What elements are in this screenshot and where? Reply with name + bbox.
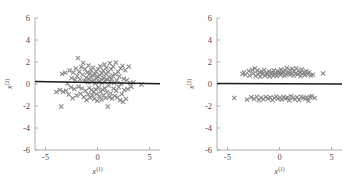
y-tick-label: -4 <box>23 123 31 133</box>
scatter-marker <box>129 85 133 89</box>
scatter-marker <box>114 89 118 93</box>
scatter-marker <box>81 61 85 65</box>
scatter-marker <box>321 71 325 75</box>
y-axis-label: x(2) <box>4 79 14 90</box>
scatter-marker <box>115 78 119 82</box>
scatter-marker <box>86 63 90 67</box>
scatter-marker <box>122 88 126 92</box>
scatter-panel-right: -6-4-20246-505x(1)x(2) <box>182 0 364 184</box>
y-tick-label: 6 <box>208 13 212 23</box>
y-tick-label: 6 <box>26 13 30 23</box>
scatter-marker <box>70 96 74 100</box>
scatter-marker <box>114 60 118 64</box>
y-tick-label: -2 <box>205 101 212 111</box>
x-tick-label: -5 <box>224 152 231 162</box>
scatter-marker <box>120 92 124 96</box>
scatter-marker <box>109 91 113 95</box>
scatter-marker <box>232 96 236 100</box>
scatter-panel-left: -6-4-20246-505x(1)x(2) <box>0 0 182 184</box>
y-tick-label: 2 <box>26 57 30 67</box>
scatter-marker <box>83 89 87 93</box>
scatter-marker <box>117 85 121 89</box>
regression-line <box>217 84 342 85</box>
x-axis-ticks: -505 <box>224 147 334 162</box>
x-tick-label: 0 <box>277 152 281 162</box>
y-tick-label: -6 <box>23 145 30 155</box>
y-axis-label: x(2) <box>186 79 196 90</box>
x-tick-label: 0 <box>95 152 99 162</box>
scatter-figure: -6-4-20246-505x(1)x(2)-6-4-20246-505x(1)… <box>0 0 364 184</box>
scatter-marker <box>116 70 120 74</box>
scatter-marker <box>84 98 88 102</box>
x-axis-label: x(1) <box>91 166 102 176</box>
x-tick-label: 5 <box>147 152 151 162</box>
y-tick-label: 2 <box>208 57 212 67</box>
x-axis-label: x(1) <box>273 166 284 176</box>
scatter-marker <box>79 65 83 69</box>
scatter-marker <box>104 66 108 70</box>
y-tick-label: 4 <box>208 35 213 45</box>
scatter-marker <box>123 68 127 72</box>
scatter-marker <box>247 69 251 73</box>
scatter-marker <box>106 84 110 88</box>
scatter-marker <box>67 92 71 96</box>
x-axis-ticks: -505 <box>42 147 152 162</box>
y-tick-label: -2 <box>23 101 30 111</box>
scatter-marker <box>102 62 106 66</box>
y-axis-ticks: -6-4-20246 <box>23 13 38 155</box>
y-tick-label: -6 <box>205 145 212 155</box>
scatter-marker <box>76 56 80 60</box>
scatter-marker <box>111 65 115 69</box>
scatter-marker <box>78 77 82 81</box>
y-tick-label: 4 <box>26 35 31 45</box>
y-tick-label: -4 <box>205 123 213 133</box>
scatter-marker <box>106 104 110 108</box>
y-tick-label: 0 <box>26 79 30 89</box>
scatter-marker <box>59 104 63 108</box>
y-tick-label: 0 <box>208 79 212 89</box>
scatter-marker <box>120 64 124 68</box>
x-tick-label: 5 <box>329 152 333 162</box>
scatter-marker <box>105 90 109 94</box>
x-tick-label: -5 <box>42 152 49 162</box>
scatter-marker <box>126 87 130 91</box>
scatter-marker <box>245 98 249 102</box>
scatter-marker <box>254 95 258 99</box>
scatter-marker <box>117 74 121 78</box>
scatter-marker <box>124 97 128 101</box>
scatter-marker <box>127 65 131 69</box>
scatter-marker <box>103 86 107 90</box>
scatter-marker <box>75 93 79 97</box>
